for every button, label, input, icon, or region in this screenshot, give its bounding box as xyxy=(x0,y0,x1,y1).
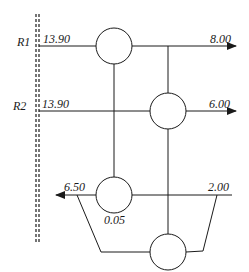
bottom-left-value: 6.50 xyxy=(64,181,85,193)
node-2-circle xyxy=(150,93,186,129)
node-3-circle xyxy=(96,177,132,213)
row-r2-input-value: 13.90 xyxy=(42,98,69,110)
flow-diagram: R1 13.90 8.00 R2 13.90 6.00 6.50 2.00 0.… xyxy=(0,0,249,272)
bottom-right-value: 2.00 xyxy=(208,181,229,193)
boundary-line xyxy=(36,14,39,243)
node-4-circle xyxy=(150,234,186,270)
row-r2-output-value: 6.00 xyxy=(209,98,230,110)
row-r1-output-value: 8.00 xyxy=(210,33,231,45)
node-3-value: 0.05 xyxy=(104,214,125,226)
row-r1-input-value: 13.90 xyxy=(43,33,70,45)
row-r1-label: R1 xyxy=(17,36,30,48)
node-1-circle xyxy=(96,28,132,64)
row-r2-label: R2 xyxy=(13,100,26,112)
